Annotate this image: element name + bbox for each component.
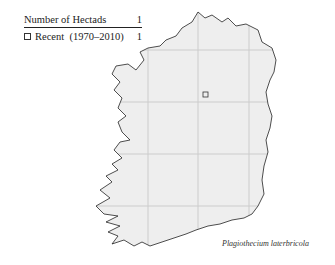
species-name: Plagiothecium laterbricola [222, 239, 309, 248]
distribution-map [0, 0, 335, 265]
